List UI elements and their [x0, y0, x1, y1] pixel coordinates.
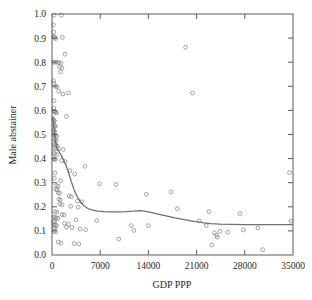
y-tick-label: 0.6 — [34, 106, 46, 116]
y-tick-label: 0.9 — [34, 34, 46, 44]
y-tick-label: 0.5 — [34, 130, 46, 140]
x-tick-label: 35000 — [281, 261, 305, 271]
x-tick-label: 0 — [50, 261, 55, 271]
y-tick-label: 1.0 — [34, 9, 46, 19]
y-tick-label: 0.7 — [34, 82, 46, 92]
x-axis-title: GDP PPP — [153, 279, 192, 290]
x-tick-label: 28000 — [233, 261, 257, 271]
x-tick-label: 21000 — [185, 261, 209, 271]
x-tick-labels-group: 0700014000210002800035000 — [50, 261, 306, 271]
y-tick-label: 0.4 — [34, 154, 46, 164]
y-tick-label: 0.0 — [34, 250, 46, 260]
y-tick-labels-group: 0.00.10.20.30.40.50.60.70.80.91.0 — [34, 9, 46, 260]
y-tick-label: 0.3 — [34, 178, 46, 188]
chart-canvas: 0700014000210002800035000 0.00.10.20.30.… — [0, 0, 312, 300]
y-tick-label: 0.1 — [34, 226, 46, 236]
scatter-plot-figure: 0700014000210002800035000 0.00.10.20.30.… — [0, 0, 312, 300]
y-tick-label: 0.2 — [34, 202, 46, 212]
y-axis-title: Male abstainer — [7, 105, 18, 165]
y-tick-label: 0.8 — [34, 58, 46, 68]
plot-area-background — [52, 14, 293, 255]
x-tick-label: 7000 — [91, 261, 110, 271]
x-tick-label: 14000 — [137, 261, 161, 271]
